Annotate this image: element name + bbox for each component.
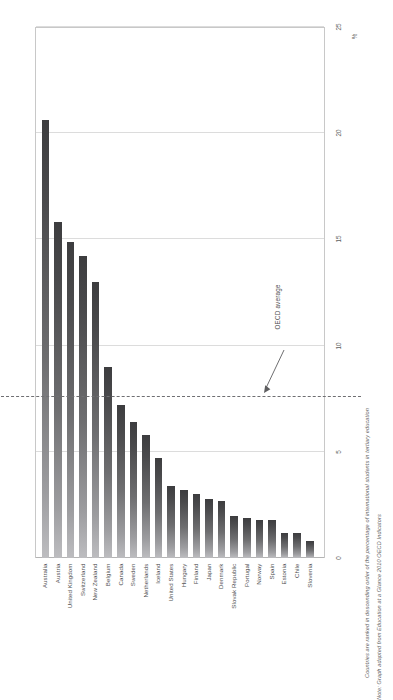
x-axis-label-united-kingdom: United Kingdom <box>66 564 73 632</box>
x-axis-label-new-zealand: New Zealand <box>91 564 98 632</box>
bar <box>205 499 213 558</box>
bar-slot <box>291 28 304 558</box>
x-axis-label-chile: Chile <box>293 564 300 632</box>
y-tick-label-10: 10 <box>334 335 344 357</box>
x-axis-label-slot: Netherlands <box>139 560 152 660</box>
x-axis-label-slovak-republic: Slovak Republic <box>230 564 237 632</box>
bar <box>67 242 75 558</box>
oecd-average-annotation-label: OECD average <box>274 272 288 342</box>
bar-slot <box>115 28 128 558</box>
bar <box>79 256 87 558</box>
bar-slot <box>228 28 241 558</box>
y-tick-label-15: 15 <box>334 228 344 250</box>
bar-slot <box>178 28 191 558</box>
x-axis-label-slot: Hungary <box>177 560 190 660</box>
bar <box>130 422 138 558</box>
x-axis-label-denmark: Denmark <box>217 564 224 632</box>
bar <box>155 458 163 558</box>
x-axis-label-slot: United States <box>164 560 177 660</box>
x-axis-label-slot: Australia <box>38 560 51 660</box>
bar-slot <box>215 28 228 558</box>
bar <box>306 541 314 558</box>
oecd-average-reference-line <box>1 396 361 397</box>
x-axis-label-slot: Portugal <box>240 560 253 660</box>
bar <box>42 120 50 558</box>
bar <box>256 520 264 558</box>
bar <box>293 533 301 558</box>
x-axis-label-netherlands: Netherlands <box>141 564 148 632</box>
bar <box>180 490 188 558</box>
x-axis-label-slot: Slovak Republic <box>227 560 240 660</box>
bar-slot <box>89 28 102 558</box>
bar <box>218 501 226 558</box>
x-axis-label-slot: Canada <box>114 560 127 660</box>
x-axis-label-austria: Austria <box>53 564 60 632</box>
bar-slot <box>303 28 316 558</box>
x-axis-label-norway: Norway <box>255 564 262 632</box>
bar <box>92 282 100 558</box>
x-axis-label-switzerland: Switzerland <box>78 564 85 632</box>
x-axis-label-slot: Sweden <box>126 560 139 660</box>
x-axis-label-belgium: Belgium <box>104 564 111 632</box>
bar <box>117 405 125 558</box>
x-axis-label-slot: Austria <box>51 560 64 660</box>
x-axis-label-slot: Belgium <box>101 560 114 660</box>
x-axis-label-sweden: Sweden <box>129 564 136 632</box>
x-axis-label-united-states: United States <box>167 564 174 632</box>
x-axis-label-slot: Japan <box>202 560 215 660</box>
bar-slot <box>39 28 52 558</box>
x-axis-label-slot: Spain <box>265 560 278 660</box>
x-axis-label-slot: Switzerland <box>76 560 89 660</box>
bar <box>230 516 238 558</box>
oecd-average-arrow-icon <box>262 348 286 394</box>
bar <box>243 518 251 558</box>
x-axis-label-australia: Australia <box>41 564 48 632</box>
y-tick-label-20: 20 <box>334 122 344 144</box>
bar-slot <box>140 28 153 558</box>
bar-slot <box>152 28 165 558</box>
x-axis-label-japan: Japan <box>204 564 211 632</box>
x-axis-label-slot: Slovenia <box>303 560 316 660</box>
bar <box>54 222 62 558</box>
bar-slot <box>102 28 115 558</box>
x-axis-label-slot: Denmark <box>214 560 227 660</box>
bar-slot <box>165 28 178 558</box>
x-axis-label-slovenia: Slovenia <box>305 564 312 632</box>
x-axis-label-slot: Chile <box>290 560 303 660</box>
bar <box>167 486 175 558</box>
x-axis-label-spain: Spain <box>267 564 274 632</box>
y-tick-label-0: 0 <box>334 547 344 569</box>
bar <box>281 533 289 558</box>
bar <box>193 494 201 558</box>
bar <box>268 520 276 558</box>
x-axis-label-hungary: Hungary <box>179 564 186 632</box>
x-axis-label-finland: Finland <box>192 564 199 632</box>
x-axis-label-slot: New Zealand <box>88 560 101 660</box>
x-axis-label-estonia: Estonia <box>280 564 287 632</box>
footnote-source: Note: Graph adapted from Education at a … <box>376 410 382 700</box>
x-axis-label-iceland: Iceland <box>154 564 161 632</box>
x-axis-label-slot: Estonia <box>277 560 290 660</box>
gridline-25 <box>36 26 324 27</box>
x-axis-label-canada: Canada <box>116 564 123 632</box>
x-axis-label-portugal: Portugal <box>242 564 249 632</box>
x-axis-label-slot: Finland <box>189 560 202 660</box>
bar-slot <box>52 28 65 558</box>
x-axis-label-slot: Iceland <box>151 560 164 660</box>
bar-slot <box>77 28 90 558</box>
bar-slot <box>127 28 140 558</box>
bar-slot <box>253 28 266 558</box>
bar-slot <box>241 28 254 558</box>
bar-slot <box>190 28 203 558</box>
x-axis-label-slot: United Kingdom <box>63 560 76 660</box>
bar-slot <box>203 28 216 558</box>
x-axis-category-labels: AustraliaAustriaUnited KingdomSwitzerlan… <box>35 560 325 665</box>
y-axis-unit-label: % <box>351 34 358 40</box>
y-tick-label-25: 25 <box>334 16 344 38</box>
bar <box>142 435 150 558</box>
x-axis-label-slot: Norway <box>252 560 265 660</box>
y-tick-label-5: 5 <box>334 441 344 463</box>
footnote-ranking: Countries are ranked in descending order… <box>364 388 370 678</box>
bar-slot <box>64 28 77 558</box>
